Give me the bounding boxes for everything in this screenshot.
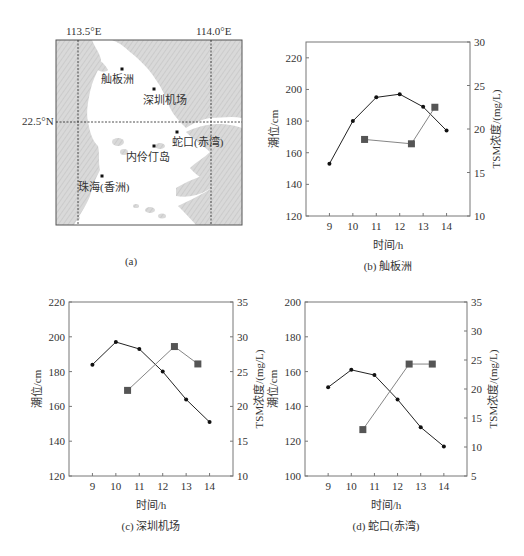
y-tick-label: 160 <box>285 366 302 378</box>
chart-c-xlabel: 时间/h <box>111 496 191 512</box>
x-tick-label: 9 <box>325 480 331 492</box>
x-tick-label: 14 <box>438 480 450 492</box>
y-tick-label: 120 <box>285 435 302 447</box>
chart-d-plot: 9101112131410012014016018020051015202530… <box>0 0 524 556</box>
tide-marker <box>349 368 353 372</box>
y-tick-label: 140 <box>285 400 302 412</box>
tide-marker <box>326 385 330 389</box>
tsm-marker <box>406 361 413 368</box>
y2-tick-label: 10 <box>471 441 483 453</box>
y2-tick-label: 20 <box>471 383 483 395</box>
chart-d-xlabel: 时间/h <box>346 496 426 512</box>
plot-frame <box>305 302 467 476</box>
x-tick-label: 13 <box>415 480 427 492</box>
y-axis-label: 潮位/cm <box>266 369 279 408</box>
chart-c-title: (c) 深圳机场 <box>101 517 201 533</box>
y2-tick-label: 15 <box>471 412 483 424</box>
chart-b-title: (b) 舢板洲 <box>338 257 438 273</box>
tide-marker <box>372 373 376 377</box>
x-tick-label: 12 <box>392 480 403 492</box>
tsm-marker <box>359 426 366 433</box>
tide-marker <box>419 425 423 429</box>
y-tick-label: 100 <box>285 470 302 482</box>
y2-tick-label: 35 <box>471 296 483 308</box>
y2-tick-label: 25 <box>471 354 483 366</box>
series-line <box>328 370 444 447</box>
tsm-marker <box>429 361 436 368</box>
y2-tick-label: 5 <box>471 470 477 482</box>
tide-marker <box>442 444 446 448</box>
y-tick-label: 180 <box>285 331 302 343</box>
x-tick-label: 11 <box>369 480 380 492</box>
chart-d-title: (d) 蛇口(赤湾) <box>331 517 441 533</box>
chart-b-xlabel: 时间/h <box>348 236 428 252</box>
x-tick-label: 10 <box>346 480 358 492</box>
y-tick-label: 200 <box>285 296 302 308</box>
tide-marker <box>396 397 400 401</box>
y2-tick-label: 30 <box>471 325 483 337</box>
y2-axis-label: TSM浓度/(mg/L) <box>486 349 500 428</box>
